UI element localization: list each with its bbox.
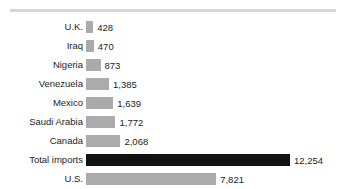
category-label: Venezuela	[0, 78, 83, 89]
value-label: 470	[98, 41, 114, 52]
chart-row: Venezuela1,385	[0, 76, 346, 95]
chart-plot-area: U.K.428Iraq470Nigeria873Venezuela1,385Me…	[0, 19, 346, 189]
value-label: 428	[97, 22, 113, 33]
value-label: 12,254	[294, 155, 323, 166]
category-label: U.K.	[0, 21, 83, 32]
chart-row: Total imports12,254	[0, 152, 346, 171]
bar	[86, 135, 120, 147]
chart-row: Nigeria873	[0, 57, 346, 76]
bar-highlight	[86, 154, 290, 166]
bar	[86, 116, 115, 128]
category-label: U.S.	[0, 173, 83, 184]
bar	[86, 78, 109, 90]
bar-group: 1,772	[86, 116, 143, 128]
bar	[86, 97, 113, 109]
category-label: Canada	[0, 135, 83, 146]
bar-group: 12,254	[86, 154, 323, 166]
bar-chart: U.K.428Iraq470Nigeria873Venezuela1,385Me…	[0, 0, 346, 189]
chart-row: U.K.428	[0, 19, 346, 38]
chart-row: Canada2,068	[0, 133, 346, 152]
bar-group: 7,821	[86, 173, 244, 185]
chart-row: Mexico1,639	[0, 95, 346, 114]
chart-row: U.S.7,821	[0, 171, 346, 189]
value-label: 1,385	[113, 79, 137, 90]
bar-group: 873	[86, 59, 120, 71]
value-label: 1,639	[117, 98, 141, 109]
top-divider	[10, 9, 336, 12]
bar-group: 1,385	[86, 78, 137, 90]
bar-group: 470	[86, 40, 114, 52]
bar-group: 2,068	[86, 135, 148, 147]
category-label: Saudi Arabia	[0, 116, 83, 127]
value-label: 1,772	[119, 117, 143, 128]
bar	[86, 21, 93, 33]
chart-row: Iraq470	[0, 38, 346, 57]
bar-group: 428	[86, 21, 113, 33]
value-label: 7,821	[220, 174, 244, 185]
value-label: 873	[105, 60, 121, 71]
bar-group: 1,639	[86, 97, 141, 109]
bar	[86, 40, 94, 52]
bar	[86, 59, 101, 71]
chart-row: Saudi Arabia1,772	[0, 114, 346, 133]
value-label: 2,068	[124, 136, 148, 147]
category-label: Mexico	[0, 97, 83, 108]
category-label: Iraq	[0, 40, 83, 51]
bar	[86, 173, 216, 185]
category-label: Nigeria	[0, 59, 83, 70]
category-label: Total imports	[0, 154, 83, 165]
